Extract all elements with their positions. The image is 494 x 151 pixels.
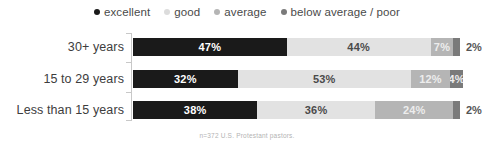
stacked-bar: 38%36%24%	[133, 101, 460, 119]
bar-segment: 44%	[287, 38, 431, 56]
legend-label: excellent	[104, 6, 150, 18]
chart-legend: excellentgoodaveragebelow average / poor	[0, 6, 494, 18]
legend-label: average	[224, 6, 266, 18]
category-label: Less than 15 years	[0, 101, 124, 119]
legend-swatch-icon	[94, 9, 100, 15]
bar-value-label: 12%	[419, 73, 442, 85]
axis-tick	[126, 120, 131, 121]
bar-value-label: 32%	[174, 73, 197, 85]
bar-value-label: 47%	[199, 41, 222, 53]
bar-segment: 24%	[375, 101, 453, 119]
legend-item-excellent[interactable]: excellent	[94, 6, 150, 18]
legend-item-below-average-poor[interactable]: below average / poor	[281, 6, 400, 18]
bar-value-label: 44%	[347, 41, 370, 53]
legend-swatch-icon	[164, 9, 170, 15]
chart-row: 30+ years 47%44%7% 2%	[0, 38, 494, 56]
axis-tick	[126, 33, 131, 34]
category-label: 15 to 29 years	[0, 70, 124, 88]
axis-tick	[126, 62, 131, 63]
bar-value-label: 7%	[434, 41, 450, 53]
bar-value-label: 53%	[313, 73, 336, 85]
bar-segment	[453, 38, 460, 56]
bar-value-label: 36%	[305, 104, 328, 116]
bar-segment: 7%	[431, 38, 454, 56]
legend-item-average[interactable]: average	[214, 6, 266, 18]
bar-value-label-outside: 2%	[466, 38, 482, 56]
bar-segment: 47%	[133, 38, 287, 56]
chart-row: Less than 15 years 38%36%24% 2%	[0, 101, 494, 119]
plot-area: 30+ years 47%44%7% 2% 15 to 29 years 32%…	[0, 30, 494, 125]
category-label: 30+ years	[0, 38, 124, 56]
bar-value-label: 38%	[184, 104, 207, 116]
bar-value-label: 4%	[450, 73, 463, 85]
axis-tick	[126, 92, 131, 93]
stacked-bar-chart: excellentgoodaveragebelow average / poor…	[0, 0, 494, 151]
legend-swatch-icon	[281, 9, 287, 15]
stacked-bar: 32%53%12%4%	[133, 70, 463, 88]
stacked-bar: 47%44%7%	[133, 38, 460, 56]
bar-segment: 32%	[133, 70, 238, 88]
bar-value-label-outside: 2%	[466, 101, 482, 119]
bar-segment: 12%	[411, 70, 450, 88]
legend-swatch-icon	[214, 9, 220, 15]
bar-segment: 36%	[257, 101, 375, 119]
chart-footnote: n=372 U.S. Protestant pastors.	[0, 132, 494, 139]
bar-segment: 53%	[238, 70, 411, 88]
legend-item-good[interactable]: good	[164, 6, 200, 18]
chart-row: 15 to 29 years 32%53%12%4%	[0, 70, 494, 88]
bar-value-label: 24%	[403, 104, 426, 116]
bar-segment: 38%	[133, 101, 257, 119]
legend-label: good	[174, 6, 200, 18]
bar-segment: 4%	[450, 70, 463, 88]
bar-segment	[453, 101, 460, 119]
legend-label: below average / poor	[291, 6, 400, 18]
